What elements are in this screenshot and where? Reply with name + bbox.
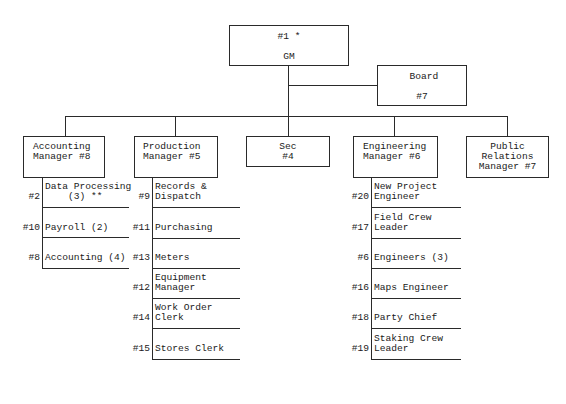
gm-down-connector	[288, 65, 289, 116]
accounting-sep	[42, 268, 129, 269]
accounting-sep	[42, 207, 129, 208]
item-number: #9	[138, 192, 150, 202]
item-label: Leader	[374, 344, 409, 354]
engineering-sep	[371, 207, 461, 208]
production-title-2: Manager #5	[143, 152, 201, 162]
item-number: #14	[133, 313, 150, 323]
item-number: #20	[352, 192, 369, 202]
item-label: Dispatch	[155, 192, 201, 202]
item-number: #8	[28, 253, 40, 263]
production-sep	[152, 207, 240, 208]
engineering-manager-box: Engineering Manager #6	[353, 136, 438, 178]
production-sep	[152, 298, 240, 299]
item-number: #12	[133, 283, 150, 293]
item-label: Purchasing	[155, 223, 213, 233]
engineering-sep	[371, 268, 461, 269]
pr-title-3: Manager #7	[467, 162, 548, 172]
board-box: Board #7	[377, 65, 467, 106]
production-sep	[152, 359, 240, 360]
department-bar	[65, 116, 507, 117]
accounting-title-2: Manager #8	[33, 152, 91, 162]
item-label: Accounting (4)	[45, 253, 126, 263]
item-number: #18	[352, 313, 369, 323]
item-number: #2	[28, 192, 40, 202]
item-number: #6	[357, 253, 369, 263]
item-number: #10	[23, 223, 40, 233]
engineering-connector	[394, 116, 395, 136]
engineering-sep	[371, 359, 461, 360]
item-label: Maps Engineer	[374, 283, 449, 293]
accounting-manager-box: Accounting Manager #8	[23, 136, 105, 178]
item-label: Clerk	[155, 313, 184, 323]
sec-connector	[288, 116, 289, 136]
item-label: Party Chief	[374, 313, 437, 323]
item-number: #15	[133, 344, 150, 354]
board-connector	[288, 85, 377, 86]
production-connector	[175, 116, 176, 136]
engineering-title-2: Manager #6	[363, 152, 421, 162]
production-sep	[152, 268, 240, 269]
production-sep	[152, 238, 240, 239]
engineering-sep	[371, 298, 461, 299]
item-label: Payroll (2)	[45, 223, 108, 233]
gm-box: #1 * GM	[229, 25, 349, 66]
item-label: Leader	[374, 223, 409, 233]
board-number: #7	[378, 92, 466, 102]
item-number: #13	[133, 253, 150, 263]
accounting-connector	[65, 116, 66, 136]
item-label: Stores Clerk	[155, 344, 224, 354]
item-number: #11	[133, 223, 150, 233]
engineering-sep	[371, 238, 461, 239]
sec-number: #4	[247, 152, 329, 162]
item-label: Engineers (3)	[374, 253, 449, 263]
item-number: #17	[352, 223, 369, 233]
sec-box: Sec #4	[246, 136, 330, 167]
gm-number: #1 *	[230, 32, 348, 42]
item-label: (3) **	[45, 192, 103, 202]
item-label: Engineer	[374, 192, 420, 202]
item-number: #19	[352, 344, 369, 354]
production-manager-box: Production Manager #5	[134, 136, 218, 178]
engineering-sep	[371, 328, 461, 329]
production-sep	[152, 328, 240, 329]
gm-title: GM	[230, 52, 348, 62]
public-relations-manager-box: Public Relations Manager #7	[466, 136, 549, 178]
item-number: #16	[352, 283, 369, 293]
item-label: Manager	[155, 283, 195, 293]
accounting-sep	[42, 237, 129, 238]
accounting-list-line	[42, 177, 43, 268]
item-label: Meters	[155, 253, 190, 263]
board-title: Board	[382, 72, 466, 82]
public-relations-connector	[507, 116, 508, 136]
